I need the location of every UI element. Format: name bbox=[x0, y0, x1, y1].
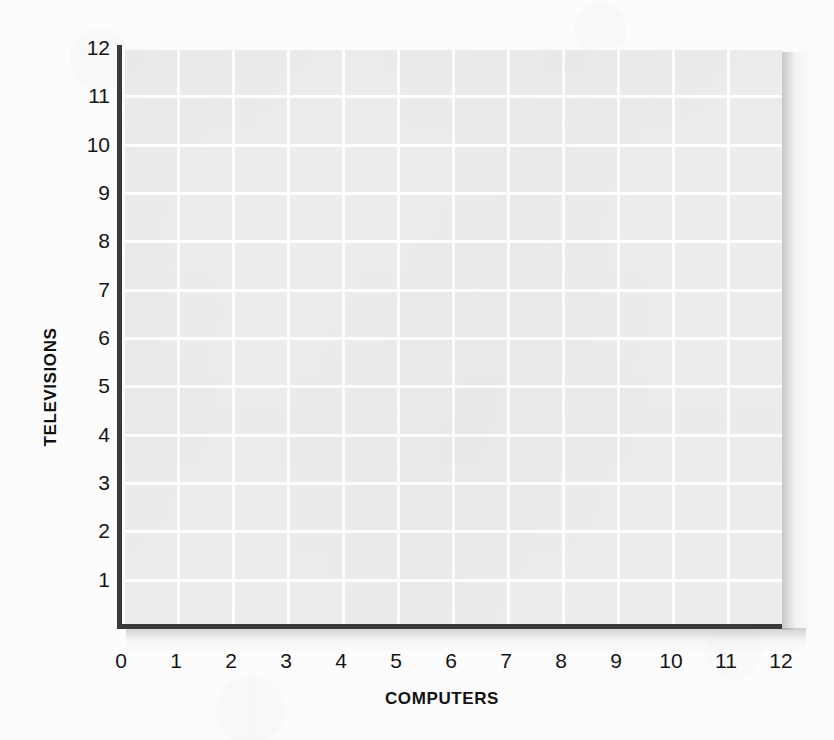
x-tick-label: 9 bbox=[610, 650, 622, 671]
x-tick-label: 7 bbox=[500, 650, 512, 671]
x-axis-title: COMPUTERS bbox=[0, 689, 834, 709]
y-axis-title: TELEVISIONS bbox=[41, 307, 61, 467]
x-tick-label: 6 bbox=[445, 650, 457, 671]
x-tick-label: 10 bbox=[659, 650, 682, 671]
x-tick-label: 1 bbox=[170, 650, 182, 671]
x-tick-label: 0 bbox=[115, 650, 127, 671]
x-tick-label: 2 bbox=[225, 650, 237, 671]
chart-figure: 12 11 10 9 8 7 6 5 4 3 2 1 0 1 2 3 4 5 6… bbox=[0, 0, 834, 740]
x-tick-label: 12 bbox=[769, 650, 792, 671]
x-tick-label: 11 bbox=[715, 650, 737, 671]
x-tick-label: 3 bbox=[280, 650, 292, 671]
x-axis-tick-labels: 0 1 2 3 4 5 6 7 8 9 10 11 12 bbox=[0, 0, 834, 740]
x-tick-label: 4 bbox=[335, 650, 347, 671]
x-tick-label: 5 bbox=[390, 650, 402, 671]
x-tick-label: 8 bbox=[555, 650, 567, 671]
